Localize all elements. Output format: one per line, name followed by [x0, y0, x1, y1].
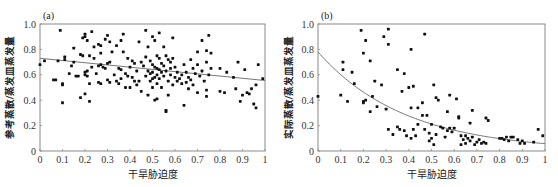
- data-point: [353, 82, 356, 85]
- data-point: [207, 34, 210, 37]
- data-point: [180, 82, 183, 85]
- data-point: [63, 56, 66, 59]
- data-point: [516, 138, 519, 141]
- data-point: [156, 98, 159, 101]
- data-point: [360, 29, 363, 32]
- data-point: [187, 76, 190, 79]
- data-point: [369, 59, 372, 62]
- data-point: [250, 87, 253, 90]
- data-point: [435, 96, 438, 99]
- data-point: [362, 52, 365, 55]
- data-point: [108, 40, 111, 43]
- data-point: [469, 122, 472, 125]
- x-tick-label: 0.7: [471, 154, 484, 165]
- data-point: [196, 91, 199, 94]
- data-point: [255, 106, 258, 109]
- data-point: [342, 68, 345, 71]
- data-point: [403, 72, 406, 75]
- data-point: [185, 71, 188, 74]
- data-point: [225, 71, 228, 74]
- data-point: [239, 100, 242, 103]
- data-point: [541, 134, 544, 137]
- data-point: [485, 142, 488, 145]
- data-point: [478, 138, 481, 141]
- data-point: [219, 67, 222, 70]
- data-point: [115, 80, 118, 83]
- data-point: [201, 39, 204, 42]
- y-tick-label: 0.4: [24, 95, 37, 106]
- data-point: [77, 75, 80, 78]
- data-point: [387, 43, 390, 46]
- data-point: [117, 82, 120, 85]
- data-point: [176, 80, 179, 83]
- data-point: [446, 110, 449, 113]
- data-point: [169, 73, 172, 76]
- data-point: [171, 84, 174, 87]
- data-point: [120, 77, 123, 80]
- data-point: [257, 63, 260, 66]
- scatter-plot-a: (a)00.10.20.30.40.50.60.70.80.9100.20.40…: [0, 0, 279, 187]
- data-point: [162, 75, 165, 78]
- data-point: [160, 86, 163, 89]
- data-point: [156, 54, 159, 57]
- data-point: [210, 52, 213, 55]
- data-point: [462, 138, 465, 141]
- data-point: [153, 76, 156, 79]
- data-point: [160, 62, 163, 65]
- data-point: [86, 75, 89, 78]
- trendline: [318, 52, 545, 144]
- data-point: [339, 94, 342, 97]
- data-point: [464, 142, 467, 145]
- data-point: [521, 139, 524, 142]
- data-point: [453, 127, 456, 130]
- data-point: [428, 132, 431, 135]
- x-tick-label: 0.5: [146, 154, 159, 165]
- data-point: [108, 81, 111, 84]
- data-point: [185, 81, 188, 84]
- data-point: [167, 80, 170, 83]
- data-point: [396, 68, 399, 71]
- data-point: [104, 38, 107, 41]
- data-point: [167, 58, 170, 61]
- data-point: [144, 75, 147, 78]
- data-point: [140, 90, 143, 93]
- x-tick-label: 0.6: [169, 154, 182, 165]
- y-tick-label: 0.4: [302, 95, 315, 106]
- data-point: [99, 82, 102, 85]
- data-point: [376, 105, 379, 108]
- data-point: [86, 39, 89, 42]
- data-point: [252, 103, 255, 106]
- data-point: [124, 72, 127, 75]
- x-tick-label: 0.9: [516, 154, 529, 165]
- data-point: [43, 59, 46, 62]
- y-tick-label: 1.0: [302, 19, 315, 30]
- x-tick-label: 0: [38, 154, 43, 165]
- data-point: [421, 101, 424, 104]
- data-point: [485, 117, 488, 120]
- data-point: [183, 63, 186, 66]
- data-point: [174, 66, 177, 69]
- data-point: [122, 51, 125, 54]
- data-point: [423, 128, 426, 131]
- data-point: [61, 82, 64, 85]
- data-point: [403, 129, 406, 132]
- data-point: [138, 80, 141, 83]
- data-point: [158, 68, 161, 71]
- scatter-plot-b: (b)00.10.20.30.40.50.60.70.80.9100.20.40…: [279, 0, 558, 187]
- data-point: [162, 65, 165, 68]
- y-tick-label: 0: [309, 146, 314, 157]
- data-point: [169, 61, 172, 64]
- data-point: [180, 73, 183, 76]
- data-point: [147, 45, 150, 48]
- data-point: [86, 70, 89, 73]
- data-point: [448, 127, 451, 130]
- data-point: [380, 84, 383, 87]
- data-point: [503, 138, 506, 141]
- data-point: [396, 125, 399, 128]
- data-point: [476, 141, 479, 144]
- data-point: [72, 61, 75, 64]
- data-point: [412, 128, 415, 131]
- data-point: [512, 136, 515, 139]
- data-point: [364, 39, 367, 42]
- y-tick-label: 0.8: [24, 44, 37, 55]
